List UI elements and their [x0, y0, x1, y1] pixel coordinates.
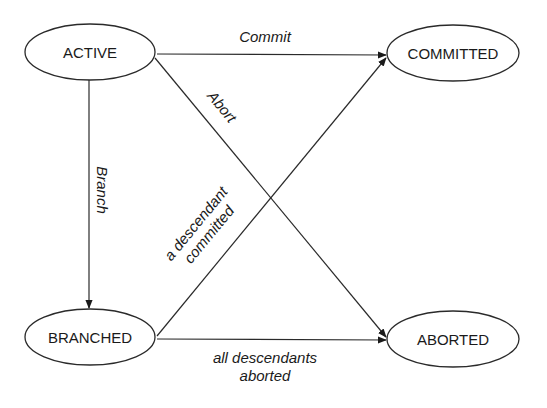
- active-label: ACTIVE: [63, 44, 117, 61]
- branch-label: Branch: [94, 166, 111, 214]
- state-diagram: ACTIVE COMMITTED BRANCHED ABORTED Commit…: [0, 0, 547, 408]
- commit-arrow: [157, 54, 386, 55]
- descendant-committed-label: a descendant committed: [160, 183, 244, 275]
- descendants-aborted-label-line2: aborted: [240, 367, 292, 384]
- edge-commit: [157, 54, 386, 55]
- edge-descendants-aborted: [157, 339, 386, 340]
- node-active: ACTIVE: [25, 24, 155, 80]
- abort-label: Abort: [204, 86, 241, 126]
- descendant-committed-arrow: [157, 58, 386, 336]
- commit-label: Commit: [239, 28, 291, 45]
- aborted-label: ABORTED: [417, 331, 489, 348]
- node-aborted: ABORTED: [387, 311, 519, 367]
- edge-descendant-committed: [157, 58, 386, 336]
- descendants-aborted-label-line1: all descendants: [213, 349, 318, 366]
- branched-label: BRANCHED: [48, 329, 132, 346]
- node-branched: BRANCHED: [25, 309, 155, 365]
- committed-label: COMMITTED: [408, 45, 499, 62]
- descendants-aborted-arrow: [157, 339, 386, 340]
- node-committed: COMMITTED: [387, 25, 519, 81]
